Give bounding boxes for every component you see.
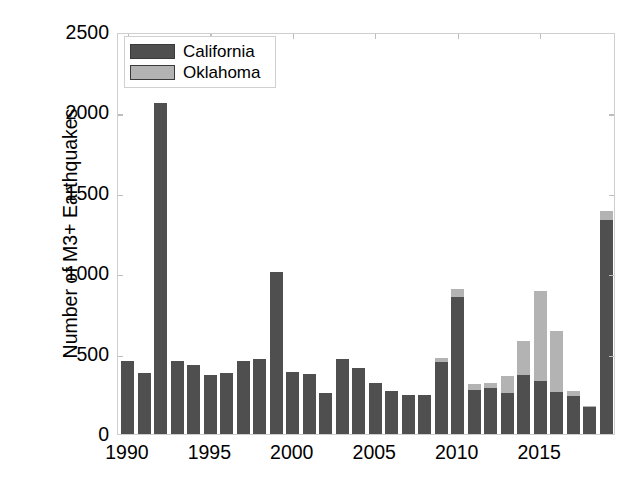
bar-1990 — [121, 361, 134, 434]
legend-item-california: California — [130, 41, 270, 62]
legend-swatch-california — [130, 44, 175, 59]
bar-segment-california-2001 — [303, 374, 316, 434]
legend-label-california: California — [183, 43, 255, 60]
x-axis-tick-labels: 199019952000200520102015 — [0, 443, 641, 473]
bar-segment-california-2004 — [352, 368, 365, 434]
bar-2019 — [600, 211, 613, 435]
legend-swatch-oklahoma — [130, 65, 175, 80]
bar-2004 — [352, 368, 365, 434]
bar-2000 — [286, 372, 299, 434]
legend: California Oklahoma — [124, 36, 276, 88]
bar-segment-california-1990 — [121, 361, 134, 434]
bar-segment-california-2018 — [583, 407, 596, 434]
x-tick-label-2005: 2005 — [353, 443, 396, 463]
bar-1993 — [171, 361, 184, 434]
bars-container — [118, 34, 614, 434]
y-tick-label-2000: 2000 — [0, 103, 109, 123]
bar-segment-california-2007 — [402, 395, 415, 434]
bar-segment-california-2012 — [484, 388, 497, 434]
earthquake-bar-chart: Number of M3+ Earthquakes 05001000150020… — [0, 0, 641, 489]
bar-segment-california-1996 — [220, 373, 233, 434]
y-tick-label-0: 0 — [0, 425, 109, 445]
bar-segment-california-1991 — [138, 373, 151, 434]
bar-segment-oklahoma-2010 — [451, 289, 464, 296]
bar-2016 — [550, 331, 563, 434]
x-tick-mark-top — [375, 34, 376, 39]
x-tick-label-2015: 2015 — [517, 443, 560, 463]
legend-label-oklahoma: Oklahoma — [183, 64, 260, 81]
bar-segment-california-2009 — [435, 362, 448, 434]
bar-segment-california-1997 — [237, 361, 250, 434]
bar-1999 — [270, 272, 283, 434]
bar-2008 — [418, 395, 431, 434]
bar-segment-oklahoma-2011 — [468, 384, 481, 390]
bar-segment-california-1992 — [154, 103, 167, 434]
plot-area — [117, 33, 615, 435]
y-tick-mark-right — [609, 195, 614, 196]
x-tick-label-1995: 1995 — [188, 443, 231, 463]
bar-2013 — [501, 376, 514, 434]
bar-2006 — [385, 391, 398, 434]
bar-2015 — [534, 291, 547, 434]
bar-2010 — [451, 289, 464, 434]
bar-2017 — [567, 391, 580, 434]
y-tick-label-500: 500 — [0, 345, 109, 365]
bar-2005 — [369, 383, 382, 434]
bar-segment-california-2016 — [550, 392, 563, 434]
bar-segment-california-2011 — [468, 390, 481, 434]
legend-item-oklahoma: Oklahoma — [130, 62, 270, 83]
bar-segment-california-1999 — [270, 272, 283, 434]
y-tick-label-2500: 2500 — [0, 23, 109, 43]
bar-segment-oklahoma-2015 — [534, 291, 547, 381]
bar-segment-california-2010 — [451, 297, 464, 434]
bar-segment-california-2015 — [534, 381, 547, 434]
x-tick-mark-top — [458, 34, 459, 39]
bar-segment-oklahoma-2012 — [484, 383, 497, 389]
x-tick-label-2000: 2000 — [270, 443, 313, 463]
bar-segment-california-2014 — [517, 375, 530, 434]
x-tick-label-1990: 1990 — [105, 443, 148, 463]
bar-segment-california-2002 — [319, 393, 332, 434]
bar-segment-california-2003 — [336, 359, 349, 434]
bar-segment-california-2005 — [369, 383, 382, 434]
x-tick-label-2010: 2010 — [435, 443, 478, 463]
bar-2003 — [336, 359, 349, 434]
y-tick-mark-right — [609, 356, 614, 357]
bar-segment-california-1994 — [187, 365, 200, 434]
y-tick-mark — [118, 275, 123, 276]
x-tick-mark-top — [293, 34, 294, 39]
bar-segment-oklahoma-2017 — [567, 391, 580, 396]
bar-segment-california-2013 — [501, 393, 514, 434]
bar-1994 — [187, 365, 200, 434]
bar-segment-oklahoma-2016 — [550, 331, 563, 392]
bar-2012 — [484, 383, 497, 434]
y-tick-mark-right — [609, 114, 614, 115]
y-tick-mark — [118, 195, 123, 196]
bar-2001 — [303, 374, 316, 434]
bar-segment-california-1993 — [171, 361, 184, 434]
bar-segment-oklahoma-2014 — [517, 341, 530, 375]
bar-segment-california-2019 — [600, 220, 613, 434]
bar-2018 — [583, 406, 596, 434]
bar-1996 — [220, 373, 233, 434]
x-tick-mark-top — [540, 34, 541, 39]
bar-2007 — [402, 395, 415, 434]
y-tick-label-1000: 1000 — [0, 264, 109, 284]
bar-segment-california-2017 — [567, 396, 580, 434]
bar-1991 — [138, 373, 151, 434]
y-tick-mark-right — [609, 275, 614, 276]
bar-segment-oklahoma-2013 — [501, 376, 514, 393]
bar-segment-california-2008 — [418, 395, 431, 434]
bar-2011 — [468, 384, 481, 434]
bar-segment-oklahoma-2009 — [435, 358, 448, 361]
bar-2014 — [517, 341, 530, 434]
bar-1992 — [154, 103, 167, 434]
bar-segment-oklahoma-2018 — [583, 406, 596, 407]
bar-1998 — [253, 359, 266, 434]
bar-2009 — [435, 358, 448, 434]
y-tick-mark — [118, 114, 123, 115]
bar-1995 — [204, 375, 217, 434]
bar-segment-california-1998 — [253, 359, 266, 434]
bar-segment-california-1995 — [204, 375, 217, 434]
y-tick-mark — [118, 356, 123, 357]
